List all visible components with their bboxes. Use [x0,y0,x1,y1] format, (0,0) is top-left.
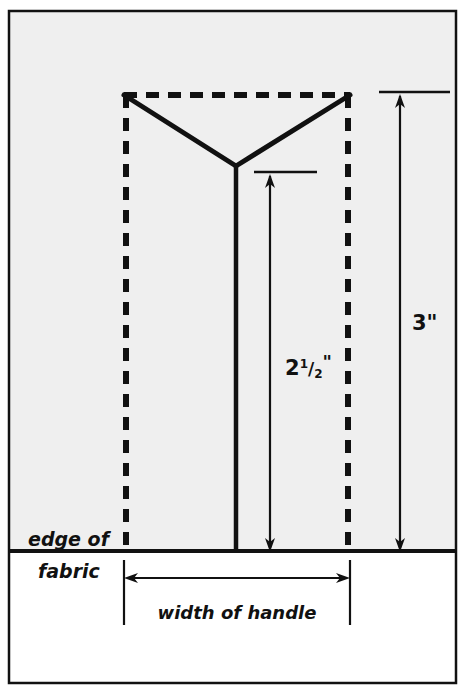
sewing-pattern-diagram: 21/2" 3" edge of fabric width of handle [0,0,465,692]
inner-dim-numerator: 1 [300,357,308,371]
inner-dim-denominator: 2 [314,367,322,381]
outer-dimension-label: 3" [412,311,438,335]
diagram-container: 21/2" 3" edge of fabric width of handle [0,0,465,692]
width-of-handle-label: width of handle [158,602,317,623]
inner-dim-whole: 2 [285,356,300,380]
edge-of-fabric-label-line1: edge of [28,528,112,550]
edge-of-fabric-label-line2: fabric [38,560,101,582]
inner-dim-unit: " [323,351,332,372]
